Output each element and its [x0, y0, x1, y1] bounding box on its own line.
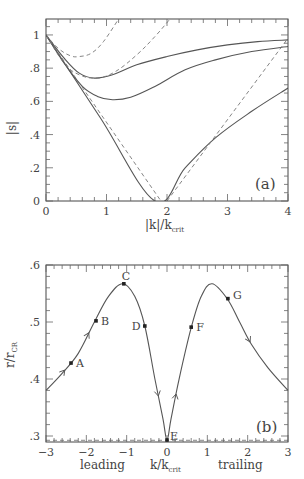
- point-marker-A: [69, 361, 73, 365]
- panel-b-xlabel-trailing: trailing: [218, 458, 263, 472]
- series-dashed-3a: [46, 35, 161, 201]
- x-tick-label: 3: [224, 205, 231, 218]
- x-tick-label: 0: [43, 205, 50, 218]
- panel-b-ticks: −3−2−10123.3.4.5.6: [30, 259, 292, 459]
- panel-a-ylabel: |s|: [5, 121, 19, 135]
- y-tick-label: .2: [30, 162, 41, 175]
- x-tick-label: 1: [103, 205, 110, 218]
- panel-b-frame: [46, 265, 288, 442]
- point-label-A: A: [75, 357, 85, 370]
- point-label-G: G: [233, 289, 242, 302]
- y-tick-label: .5: [30, 316, 41, 329]
- panel-b-ylabel: r/rCR: [3, 341, 19, 368]
- panel-b-xlabel-leading: leading: [80, 458, 125, 472]
- panel-b-plot: −3−2−10123.3.4.5.6 ABCDEFG (b) leading k…: [3, 259, 292, 474]
- x-tick-label: 1: [204, 446, 211, 459]
- y-tick-label: .6: [30, 95, 41, 108]
- point-label-E: E: [170, 430, 178, 443]
- y-tick-label: 0: [33, 195, 40, 208]
- point-label-B: B: [101, 315, 109, 328]
- y-tick-label: .4: [30, 373, 41, 386]
- panel-a-curves: [46, 19, 288, 203]
- point-label-C: C: [122, 270, 130, 283]
- x-tick-label: 2: [164, 205, 171, 218]
- panel-a-ticks: 012340.2.4.6.81: [30, 19, 292, 218]
- y-tick-label: 1: [33, 29, 40, 42]
- panel-a-label: (a): [255, 175, 276, 193]
- panel-b-xlabel: k/kcrit: [150, 458, 181, 474]
- point-marker-E: [165, 438, 169, 442]
- x-tick-label: 3: [285, 446, 292, 459]
- point-marker-F: [189, 325, 193, 329]
- x-tick-label: 4: [285, 205, 292, 218]
- point-label-F: F: [196, 321, 204, 334]
- series-solid-3: [46, 35, 288, 203]
- panel-a-plot: 012340.2.4.6.81 (a) |k|/kcrit |s|: [5, 19, 292, 234]
- panel-a-frame: [46, 19, 288, 201]
- y-tick-label: .4: [30, 129, 41, 142]
- panel-b-label: (b): [256, 418, 277, 436]
- figure: 012340.2.4.6.81 (a) |k|/kcrit |s| −3−2−1…: [0, 0, 304, 479]
- panel-a-xlabel: |k|/kcrit: [145, 218, 184, 234]
- series-dashed-2: [46, 19, 170, 78]
- point-marker-B: [94, 319, 98, 323]
- point-marker-D: [143, 324, 147, 328]
- point-label-D: D: [132, 320, 141, 333]
- y-tick-label: .8: [30, 62, 41, 75]
- y-tick-label: .6: [30, 259, 41, 272]
- point-marker-G: [226, 297, 230, 301]
- panel-b-points: ABCDEFG: [69, 270, 241, 443]
- y-tick-label: .3: [30, 430, 41, 443]
- x-tick-label: −3: [38, 446, 54, 459]
